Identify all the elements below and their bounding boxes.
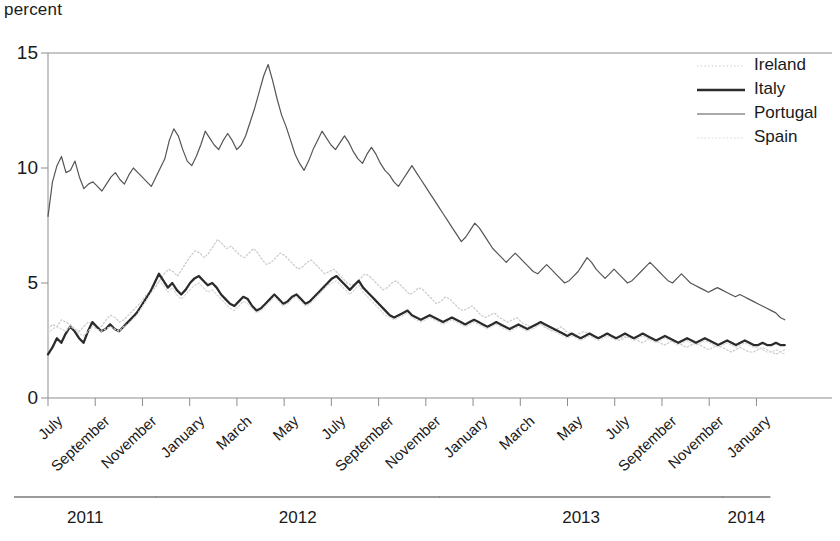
- year-group-label: 2012: [258, 508, 338, 528]
- series-line-ireland: [48, 239, 785, 354]
- legend-label-spain: Spain: [754, 127, 797, 147]
- chart-container: percent 051015 JulySeptemberNovemberJanu…: [0, 0, 840, 541]
- legend-label-ireland: Ireland: [754, 55, 806, 75]
- series-line-italy: [48, 274, 785, 355]
- legend-label-portugal: Portugal: [754, 103, 817, 123]
- year-group-label: 2014: [706, 508, 786, 528]
- year-group-label: 2013: [541, 508, 621, 528]
- chart-plot-area: [0, 0, 840, 541]
- year-group-label: 2011: [45, 508, 125, 528]
- legend-label-italy: Italy: [754, 79, 785, 99]
